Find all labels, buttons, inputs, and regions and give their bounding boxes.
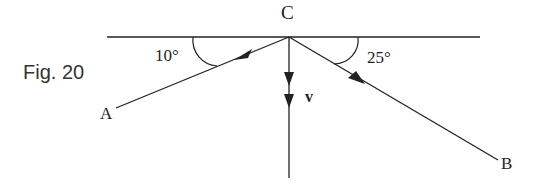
angle-label-left: 10° — [155, 46, 179, 66]
angle-arc-right — [334, 37, 358, 64]
point-label-a: A — [100, 104, 112, 124]
point-label-b: B — [501, 154, 512, 174]
point-label-c: C — [281, 2, 294, 24]
diagram-lines — [0, 0, 541, 192]
velocity-label: v — [305, 88, 313, 106]
diagram: C A B 10° 25° v Fig. 20 — [0, 0, 541, 192]
line-c-to-b — [289, 37, 498, 160]
arrowhead-v2-icon — [284, 94, 294, 108]
arrowhead-v1-icon — [284, 72, 294, 86]
angle-arc-left — [193, 37, 217, 66]
angle-label-right: 25° — [367, 48, 391, 68]
figure-caption: Fig. 20 — [23, 61, 84, 84]
line-c-to-a — [116, 37, 289, 108]
